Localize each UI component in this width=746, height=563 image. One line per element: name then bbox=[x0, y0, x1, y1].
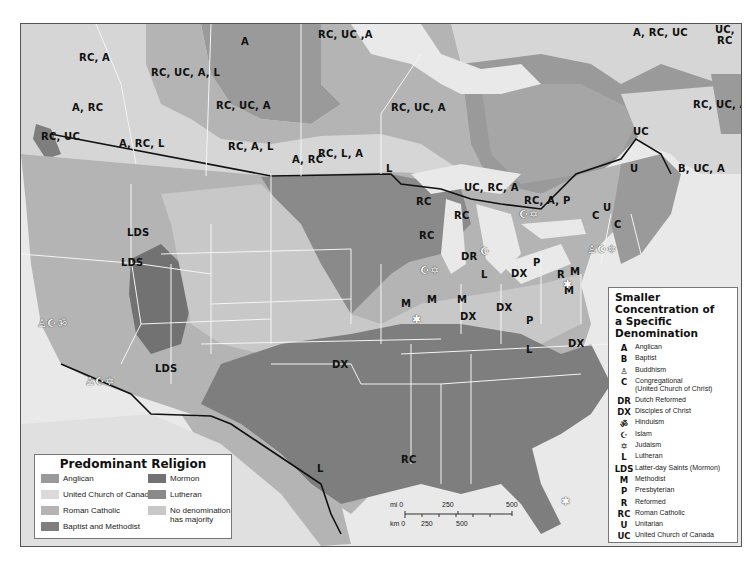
scale-mi-500: 500 bbox=[506, 501, 518, 508]
legend-side-label: Presbyterian bbox=[635, 486, 674, 494]
legend-side-item: DXDisciples of Christ bbox=[613, 407, 737, 418]
legend-side-label: Judaism bbox=[635, 441, 661, 449]
region-label: DX bbox=[332, 359, 348, 370]
code-r: R bbox=[613, 498, 635, 508]
legend-item-ucc: United Church of Canada bbox=[41, 490, 153, 499]
legend-side-label: Islam bbox=[635, 430, 652, 438]
legend-side-item: UUnitarian bbox=[613, 520, 737, 531]
legend-item-baptist-methodist: Baptist and Methodist bbox=[41, 522, 140, 531]
region-label: RC bbox=[419, 230, 434, 241]
region-label: DX bbox=[511, 268, 527, 279]
islam-icon: ☪ bbox=[613, 430, 635, 440]
legend-item-roman-catholic: Roman Catholic bbox=[41, 506, 120, 515]
scale-km-250: 250 bbox=[421, 520, 433, 527]
islam-judaism-icon: ☪✡ bbox=[420, 264, 439, 277]
buddhism-islam-hinduism-icon: ♙☪ॐ bbox=[37, 315, 67, 330]
legend-label: Anglican bbox=[63, 474, 94, 483]
scale-line bbox=[404, 511, 514, 519]
region-label: RC, UC ,A bbox=[318, 29, 373, 40]
islam-judaism-icon: ☪✡ bbox=[519, 208, 538, 221]
legend-side-item: ॐHinduism bbox=[613, 418, 737, 429]
region-label: L bbox=[386, 163, 393, 174]
legend-side-item: LDSLatter-day Saints (Mormon) bbox=[613, 464, 737, 475]
code-b: B bbox=[613, 354, 635, 364]
legend-label: Baptist and Methodist bbox=[63, 522, 140, 531]
legend-item-lutheran: Lutheran bbox=[148, 490, 202, 499]
code-a: A bbox=[613, 343, 635, 353]
region-label: RC bbox=[454, 210, 469, 221]
legend-item-no-majority: No denominationhas majority bbox=[148, 506, 230, 524]
region-label: RC, UC, A, L bbox=[151, 67, 220, 78]
scale-mi-zero: mi 0 bbox=[390, 501, 403, 508]
hinduism-icon: ॐ bbox=[613, 418, 635, 429]
legend-side-label: Reformed bbox=[635, 498, 666, 506]
legend-side-item: RReformed bbox=[613, 498, 737, 509]
region-label: RC, A bbox=[79, 52, 110, 63]
map-frame: RC, ARC, UC, A, LARC, UC ,AA, RC, UCUC,R… bbox=[20, 23, 742, 547]
code-lds: LDS bbox=[613, 464, 635, 474]
region-label: UC, RC, A bbox=[464, 182, 519, 193]
swatch-baptist-methodist bbox=[41, 522, 59, 531]
region-label: P bbox=[533, 257, 541, 268]
legend-side-title: Smaller Concentration ofa Specific Denom… bbox=[615, 291, 737, 339]
capital-star-icon: ✱ bbox=[563, 278, 572, 291]
region-label: M bbox=[401, 298, 411, 309]
code-p: P bbox=[613, 486, 635, 496]
legend-side-label: Unitarian bbox=[635, 520, 663, 528]
code-dr: DR bbox=[613, 396, 635, 406]
swatch-mormon bbox=[148, 474, 166, 483]
region-label: RC bbox=[401, 454, 416, 465]
islam-icon: ☪ bbox=[480, 245, 490, 258]
region-label: L bbox=[317, 463, 324, 474]
region-label: RC, L, A bbox=[318, 148, 363, 159]
legend-label: United Church of Canada bbox=[63, 490, 153, 499]
legend-smaller-concentration: Smaller Concentration ofa Specific Denom… bbox=[608, 287, 738, 543]
region-label: A, RC bbox=[72, 102, 103, 113]
legend-title: Predominant Religion bbox=[35, 457, 231, 471]
legend-side-label: Hinduism bbox=[635, 418, 664, 426]
region-label: A bbox=[241, 36, 249, 47]
legend-side-label: Dutch Reformed bbox=[635, 396, 686, 404]
region-label: DX bbox=[460, 311, 476, 322]
legend-side-item: MMethodist bbox=[613, 475, 737, 486]
code-l: L bbox=[613, 452, 635, 462]
region-label: RC, UC bbox=[41, 131, 80, 142]
buddhism-islam-judaism-icon: ♙☪✡ bbox=[587, 243, 616, 256]
region-label: C bbox=[592, 210, 600, 221]
legend-side-item: BBaptist bbox=[613, 354, 737, 365]
region-label: RC, A, P bbox=[524, 195, 570, 206]
region-label: LDS bbox=[127, 227, 149, 238]
swatch-lutheran bbox=[148, 490, 166, 499]
region-label: RC, UC, A bbox=[216, 100, 271, 111]
region-label: M bbox=[570, 266, 580, 277]
region-label: A, RC, UC bbox=[633, 27, 688, 38]
region-label: L bbox=[526, 344, 533, 355]
region-label: U bbox=[603, 202, 611, 213]
legend-item-mormon: Mormon bbox=[148, 474, 199, 483]
legend-side-label: Lutheran bbox=[635, 452, 663, 460]
swatch-roman-catholic bbox=[41, 506, 59, 515]
legend-side-label: Latter-day Saints (Mormon) bbox=[635, 464, 720, 472]
region-label: M bbox=[457, 294, 467, 305]
buddhism-islam-judaism-icon: ♙☪✡ bbox=[85, 375, 114, 388]
legend-item-anglican: Anglican bbox=[41, 474, 94, 483]
legend-label: Lutheran bbox=[170, 490, 202, 499]
region-label: UC, bbox=[715, 24, 735, 35]
legend-side-label: Disciples of Christ bbox=[635, 407, 691, 415]
code-uc: UC bbox=[613, 531, 635, 541]
legend-side-item: DRDutch Reformed bbox=[613, 396, 737, 407]
legend-side-label: Congregational(United Church of Christ) bbox=[635, 377, 712, 393]
legend-side-item: ✡Judaism bbox=[613, 441, 737, 452]
legend-label: No denominationhas majority bbox=[170, 506, 230, 524]
region-label: L bbox=[481, 269, 488, 280]
legend-label: Roman Catholic bbox=[63, 506, 120, 515]
region-label: U bbox=[630, 163, 638, 174]
judaism-icon: ✡ bbox=[613, 441, 635, 451]
legend-side-item: LLutheran bbox=[613, 452, 737, 463]
capital-star-icon: ✱ bbox=[561, 495, 570, 508]
region-label: LDS bbox=[155, 363, 177, 374]
region-label: B, UC, A bbox=[678, 163, 725, 174]
code-dx: DX bbox=[613, 407, 635, 417]
legend-side-item: PPresbyterian bbox=[613, 486, 737, 497]
scale-km-zero: km 0 bbox=[390, 520, 405, 527]
